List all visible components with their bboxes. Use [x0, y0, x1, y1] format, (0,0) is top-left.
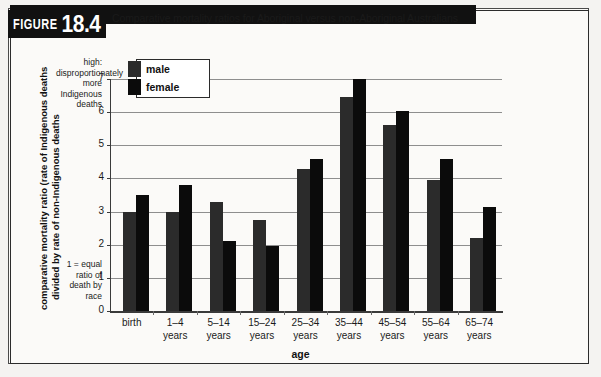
bar-female	[396, 111, 409, 312]
figure-number: 18.4	[62, 11, 101, 37]
legend-swatch-male	[128, 61, 141, 77]
legend-label-male: male	[146, 63, 170, 75]
legend-item-female: female	[137, 78, 209, 96]
bar-male	[340, 97, 353, 311]
bar-female	[266, 246, 279, 311]
bar-female	[440, 159, 453, 311]
y-axis-tick-label: 0	[98, 304, 104, 315]
x-axis-tick	[153, 311, 154, 315]
bar-male	[427, 180, 440, 311]
y-axis-tick-labels: 76543210	[86, 79, 104, 311]
bar-female	[179, 185, 192, 311]
y-axis-tick-label: 5	[98, 138, 104, 149]
bar-group	[297, 79, 323, 311]
figure-title: Comparative mortality ratios for Aborigi…	[112, 12, 458, 24]
bar-female	[136, 195, 149, 311]
y-axis-title-line1: comparative mortality ratio (rate of Ind…	[38, 67, 49, 310]
x-axis-tick	[327, 311, 328, 315]
bar-male	[470, 238, 483, 311]
x-axis-tick	[371, 311, 372, 315]
bar-female	[223, 241, 236, 311]
legend-item-male: male	[137, 60, 209, 78]
bar-male	[123, 212, 136, 311]
x-axis-tick	[240, 311, 241, 315]
x-axis-title: age	[0, 348, 601, 360]
x-axis-tick	[197, 311, 198, 315]
bar-female	[353, 79, 366, 311]
bar-group	[123, 79, 149, 311]
bar-group	[383, 79, 409, 311]
figure-tag: FIGURE 18.4	[8, 10, 106, 38]
legend-swatch-female	[128, 79, 141, 95]
y-axis-tick-label: 7	[98, 72, 104, 83]
bar-group	[340, 79, 366, 311]
bar-male	[253, 220, 266, 311]
bar-male	[210, 202, 223, 311]
x-axis-tick	[458, 311, 459, 315]
legend-label-female: female	[146, 81, 179, 93]
x-axis-tick	[284, 311, 285, 315]
bar-group	[470, 79, 496, 311]
y-axis-tick-label: 6	[98, 105, 104, 116]
bar-group	[253, 79, 279, 311]
figure-page: FIGURE 18.4 Comparative mortality ratios…	[0, 0, 601, 377]
x-axis-category-label: 65–74years	[444, 316, 514, 342]
bar-group	[427, 79, 453, 311]
bar-female	[310, 159, 323, 311]
bar-male	[383, 125, 396, 311]
y-axis-tick-label: 1	[98, 271, 104, 282]
bar-group	[166, 79, 192, 311]
bar-male	[297, 169, 310, 312]
bar-group	[210, 79, 236, 311]
x-axis-line	[110, 311, 503, 313]
y-axis-tick-label: 3	[98, 205, 104, 216]
bar-male	[166, 212, 179, 311]
legend: male female	[136, 59, 210, 98]
x-axis-tick	[414, 311, 415, 315]
bar-series-container	[111, 79, 502, 311]
plot-area	[110, 79, 501, 311]
y-axis-tick-label: 2	[98, 238, 104, 249]
y-axis-tick-label: 4	[98, 171, 104, 182]
bar-female	[483, 207, 496, 311]
figure-word: FIGURE	[13, 16, 58, 32]
